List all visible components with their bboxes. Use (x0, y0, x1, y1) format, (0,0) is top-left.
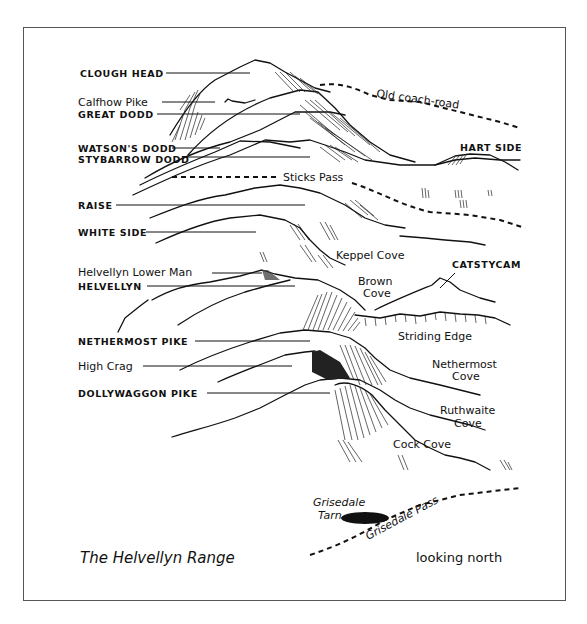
label-striding-edge: Striding Edge (398, 330, 472, 343)
ridge-dollywaggon-pike (172, 378, 485, 437)
hatch-stybarrow-east (320, 145, 358, 162)
label-helvellyn-lower-man: Helvellyn Lower Man (78, 266, 192, 279)
hatch-cock-cove-face (335, 385, 512, 470)
ridge-calfhow (225, 99, 255, 103)
crag-hatching (172, 72, 512, 524)
hatch-helvellyn-east-face (300, 290, 360, 332)
ridge-clough-head (170, 60, 330, 135)
label-keppel-cove: Keppel Cove (336, 249, 405, 262)
ridge-raise (150, 185, 405, 228)
label-nethermost-pike: NETHERMOST PIKE (78, 336, 188, 347)
label-old-coach-road: Old coach-road (376, 87, 460, 111)
label-hart-side: HART SIDE (460, 142, 522, 153)
label-brown-cove-2: Cove (363, 287, 391, 300)
diagram-title: The Helvellyn Range (80, 549, 235, 567)
label-raise: RAISE (78, 200, 113, 211)
hatch-clough-head-east (275, 72, 322, 96)
label-stybarrow-dodd: STYBARROW DODD (78, 154, 189, 165)
hatch-raise-east (345, 200, 378, 220)
label-great-dodd: GREAT DODD (78, 109, 154, 120)
hatch-clough-head-west (172, 90, 205, 142)
label-calfhow-pike: Calfhow Pike (78, 96, 148, 109)
hatch-keppel-cove (260, 222, 338, 268)
ridge-raise-right (400, 236, 485, 245)
label-white-side: WHITE SIDE (78, 227, 147, 238)
ridge-helvellyn-left (118, 300, 148, 332)
helvellyn-range-diagram: CLOUGH HEAD Calfhow Pike GREAT DODD WATS… (0, 0, 587, 624)
label-helvellyn: HELVELLYN (78, 281, 142, 292)
feature-labels: HART SIDE CATSTYCAM Keppel Cove Brown Co… (313, 142, 522, 522)
hatch-tufts (422, 188, 492, 208)
label-dollywaggon-pike: DOLLYWAGGON PIKE (78, 388, 198, 399)
ridge-sketch: CLOUGH HEAD Calfhow Pike GREAT DODD WATS… (0, 0, 587, 624)
route-sticks-pass-east (352, 183, 525, 228)
hatch-high-crag-block (312, 350, 350, 380)
label-cock-cove: Cock Cove (393, 438, 451, 451)
hatch-great-dodd-east (300, 100, 380, 160)
label-catstycam: CATSTYCAM (452, 259, 521, 270)
ridge-catstycam (375, 278, 495, 310)
label-sticks-pass: Sticks Pass (283, 171, 344, 184)
label-clough-head: CLOUGH HEAD (80, 68, 164, 79)
label-watsons-dodd: WATSON'S DODD (78, 143, 177, 154)
label-high-crag: High Crag (78, 360, 133, 373)
ridge-helvellyn-lower (178, 280, 290, 325)
label-ruthwaite-cove-1: Ruthwaite (440, 404, 496, 417)
label-grisedale-tarn-1: Grisedale (313, 496, 365, 509)
label-ruthwaite-cove-2: Cove (454, 417, 482, 430)
routes (172, 84, 525, 555)
orientation-note: looking north (416, 550, 502, 565)
ridge-striding-edge (355, 312, 510, 325)
label-grisedale-tarn-2: Tarn (318, 509, 342, 522)
ridge-white-side (156, 215, 345, 265)
ridge-great-dodd (188, 90, 415, 162)
label-nethermost-cove-2: Cove (452, 370, 480, 383)
captions: The Helvellyn Range looking north (80, 549, 502, 567)
